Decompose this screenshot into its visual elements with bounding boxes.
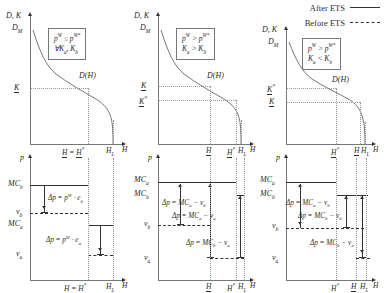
guide-v-hbar <box>210 158 211 280</box>
y-axis-arrowhead <box>284 154 288 158</box>
delta-cap-b <box>41 212 48 213</box>
delta-cap-a <box>97 254 104 255</box>
delta-connector-2 <box>346 196 347 228</box>
panel-top-middle: D, K DM K K* D(H) pW > pW* Ka > Kb H H* … <box>128 0 256 150</box>
y-tick-label-va: va <box>16 250 22 260</box>
y-tick-label-va: va <box>272 254 278 264</box>
y-axis-label: p <box>276 154 280 162</box>
guide-v-hstar <box>88 158 89 280</box>
delta-label-1: Δp = MCa − vb <box>162 200 206 209</box>
delta-label-1: Δp = MCa − vb <box>286 200 330 209</box>
condition-line-2: Ka > Kb <box>182 44 209 56</box>
demand-curve-svg <box>0 0 128 150</box>
x-axis-label: H <box>250 282 255 290</box>
delta-connector-3 <box>362 196 363 258</box>
delta-arrowhead-3-down <box>360 250 364 253</box>
x-axis <box>286 280 372 281</box>
guide-v-hbar <box>356 158 357 280</box>
delta-arrowhead-3-up <box>360 196 364 199</box>
panel-bottom-right: MCa MCb p vb va Δp = MCa − vb Δp = MCb −… <box>256 150 384 293</box>
panel-top-left: D, K DM K D(H) pW ≤ pW* ∀Ka, Kb H = H* H… <box>0 0 128 150</box>
y-axis <box>286 158 287 280</box>
guide-v-hl <box>113 120 114 144</box>
guide-v-hbar <box>360 102 361 144</box>
delta-arrowhead-2-up <box>344 196 348 199</box>
x-tick-label-hl: HL <box>238 283 246 293</box>
guide-v-hl <box>366 158 367 280</box>
delta-label-a: Δp = pW · ea <box>46 236 81 247</box>
mcb-after-ets-segment <box>30 185 88 186</box>
y-tick-label-mca: MCa <box>134 176 149 186</box>
condition-line-1: pW > pW* <box>182 32 209 44</box>
y-tick-label-vb: vb <box>16 208 22 218</box>
x-tick-label-hstar: H = H* <box>64 283 86 292</box>
y-tick-label-mca: MCa <box>260 176 275 186</box>
guide-v-hstar <box>236 100 237 144</box>
mca-after-ets-segment <box>286 182 336 183</box>
y-tick-label-mca: MCa <box>8 220 23 230</box>
condition-line-2: ∀Ka, Kb <box>54 44 80 56</box>
x-tick-label-hl: HL <box>360 283 368 293</box>
guide-v-hstar <box>336 158 337 280</box>
guide-v-hl <box>113 158 114 280</box>
x-tick-label-hstar: H* <box>227 283 235 292</box>
x-axis-label: H <box>122 282 127 290</box>
guide-h-k <box>158 86 210 87</box>
x-tick-label-hstar: H* <box>331 283 339 292</box>
y-tick-label-va: va <box>144 254 150 264</box>
condition-line-1: pW ≤ pW* <box>54 32 80 44</box>
condition-box: pW > pW* Ka < Kb <box>302 38 341 70</box>
x-tick-label-hl: HL <box>106 283 114 293</box>
guide-v-hbar <box>210 86 211 144</box>
guide-h-k <box>30 88 88 89</box>
delta-cap-2 <box>343 227 350 228</box>
y-tick-label-mcb: MCb <box>260 190 275 200</box>
curve-label-dh: D(H) <box>332 76 349 84</box>
va-before-ets-segment <box>356 258 370 259</box>
delta-cap-1 <box>177 224 184 225</box>
x-axis-label: H <box>373 282 378 290</box>
condition-box: pW > pW* Ka > Kb <box>176 28 215 60</box>
vb-before-ets-segment <box>286 228 364 229</box>
delta-arrowhead-1-up <box>298 184 302 187</box>
y-axis-label: p <box>20 154 24 162</box>
vb-before-ets-segment <box>30 213 88 214</box>
guide-v-hl <box>241 120 242 144</box>
delta-label-b: Δp = pW · eb <box>48 194 83 205</box>
y-axis <box>158 158 159 280</box>
delta-label-3: Δp = MCb − va <box>310 240 354 249</box>
x-axis <box>30 280 122 281</box>
y-axis <box>30 158 31 280</box>
va-before-ets-segment <box>210 258 244 259</box>
delta-arrowhead-1-up <box>178 184 182 187</box>
delta-label-3: Δp = MCb − va <box>186 240 230 249</box>
x-tick-label-hbar: H <box>206 283 211 291</box>
delta-arrowhead-b-down <box>42 206 46 209</box>
y-axis-label: p <box>148 154 152 162</box>
curve-label-dh: D(H) <box>79 72 96 80</box>
x-axis <box>158 280 250 281</box>
y-axis-arrowhead <box>28 154 32 158</box>
panel-bottom-left: p MCb vb MCa va Δp = pW · eb Δp = pW · e… <box>0 150 128 293</box>
guide-h-kstar <box>286 88 336 89</box>
guide-v-hl <box>365 122 366 144</box>
panel-bottom-middle: p MCa MCb vb va Δp = MCa − vb Δp = MCa −… <box>128 150 256 293</box>
delta-arrowhead-a-down <box>98 248 102 251</box>
y-tick-label-mcb: MCb <box>134 190 149 200</box>
y-tick-label-vb: vb <box>272 222 278 232</box>
guide-v-hl <box>244 158 245 280</box>
condition-line-2: Ka < Kb <box>308 54 335 66</box>
guide-h-k <box>286 102 360 103</box>
x-tick-label-hbar: H <box>351 283 356 291</box>
guide-v-hstar <box>88 88 89 144</box>
guide-h-kstar <box>158 100 236 101</box>
condition-line-1: pW > pW* <box>308 42 335 54</box>
vb-before-ets-segment <box>158 225 210 226</box>
condition-box: pW ≤ pW* ∀Ka, Kb <box>48 28 86 60</box>
guide-v-hstar <box>336 88 337 144</box>
curve-label-dh: D(H) <box>207 72 224 80</box>
delta-arrowhead-1-down <box>298 222 302 225</box>
guide-v-hstar <box>236 158 237 280</box>
delta-connector-3 <box>240 196 241 258</box>
panel-top-right: D, K DM K* K D(H) pW > pW* Ka < Kb H* H … <box>256 0 384 150</box>
